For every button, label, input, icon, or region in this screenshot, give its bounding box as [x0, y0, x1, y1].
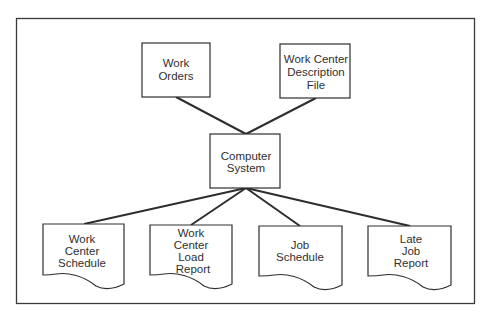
node-work-orders: Work Orders: [142, 43, 210, 97]
label-line: Work: [178, 227, 205, 239]
label-line: File: [307, 79, 326, 91]
label-line: Late: [400, 233, 422, 245]
connector-wc-schedule: [84, 188, 246, 224]
diagram-canvas: Work Orders Work Center Description File…: [0, 0, 489, 323]
label-line: Center: [65, 245, 100, 257]
label-line: Work: [69, 233, 96, 245]
connector-work-orders: [176, 97, 246, 134]
label-line: Schedule: [276, 251, 324, 263]
label-line: Center: [174, 239, 209, 251]
label-line: Work: [163, 57, 190, 69]
label-line: Report: [394, 257, 429, 269]
label-line: Description: [287, 66, 345, 78]
label-line: Report: [176, 263, 211, 275]
node-late-job-report: Late Job Report: [368, 226, 451, 290]
label-line: System: [227, 162, 265, 174]
label-line: Orders: [158, 70, 193, 82]
node-work-center-description-file: Work Center Description File: [280, 44, 350, 98]
node-job-schedule: Job Schedule: [259, 226, 342, 290]
connector-wc-description: [246, 98, 316, 134]
node-work-center-load-report: Work Center Load Report: [150, 225, 232, 289]
label-line: Work Center: [284, 53, 349, 65]
label-line: Job: [402, 245, 421, 257]
label-line: Computer: [221, 150, 272, 162]
label-line: Schedule: [58, 257, 106, 269]
label-line: Job: [291, 239, 310, 251]
node-computer-system: Computer System: [210, 134, 280, 188]
connector-late-job-report: [246, 188, 410, 226]
label-line: Load: [178, 251, 204, 263]
node-work-center-schedule: Work Center Schedule: [43, 224, 124, 289]
